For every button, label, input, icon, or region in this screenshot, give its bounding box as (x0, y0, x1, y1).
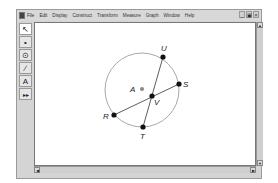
label-t: T (140, 132, 146, 141)
menu-transform[interactable]: Transform (97, 13, 118, 18)
close-button[interactable]: × (253, 11, 259, 18)
scroll-down-button[interactable]: ▼ (257, 160, 263, 166)
menu-measure[interactable]: Measure (123, 13, 141, 18)
circle-icon: ⊙ (22, 51, 29, 60)
menu-construct[interactable]: Construct (72, 13, 92, 18)
label-a: A (129, 85, 135, 94)
point-t[interactable] (140, 124, 145, 129)
point-tool[interactable]: • (19, 36, 32, 48)
center-point-a[interactable] (140, 87, 144, 91)
label-u: U (161, 44, 167, 53)
segment-ut[interactable] (143, 57, 163, 127)
text-tool[interactable]: A (19, 75, 32, 87)
arrow-icon: ↖ (22, 25, 29, 34)
menu-edit[interactable]: Edit (39, 13, 47, 18)
line-icon: ∕ (25, 64, 26, 73)
menu-file[interactable]: File (27, 13, 34, 18)
toolbox: ↖ • ⊙ ∕ A ▸▸ (18, 22, 33, 104)
window-controls: _ ▣ × (239, 11, 259, 18)
resize-grip-icon[interactable] (255, 172, 261, 178)
point-s[interactable] (176, 81, 181, 86)
vertical-scrollbar[interactable]: ▲ ▼ (256, 22, 263, 166)
geometry-drawing: U S A V R T (35, 23, 257, 167)
selection-arrow-tool[interactable]: ↖ (19, 23, 32, 35)
menu-window[interactable]: Window (163, 13, 179, 18)
menu-display[interactable]: Display (52, 13, 67, 18)
maximize-button[interactable]: ▣ (246, 11, 252, 18)
custom-tool-icon: ▸▸ (23, 91, 29, 98)
compass-tool[interactable]: ⊙ (19, 49, 32, 61)
straightedge-tool[interactable]: ∕ (19, 62, 32, 74)
horizontal-scrollbar[interactable]: ◀ ▶ (34, 166, 256, 173)
point-r[interactable] (111, 112, 116, 117)
app-icon[interactable] (19, 12, 25, 19)
minimize-button[interactable]: _ (239, 11, 245, 18)
point-icon: • (24, 38, 27, 47)
text-icon: A (23, 77, 28, 86)
segment-rs[interactable] (114, 84, 179, 115)
scroll-up-button[interactable]: ▲ (257, 22, 263, 28)
menu-help[interactable]: Help (185, 13, 194, 18)
custom-tool[interactable]: ▸▸ (19, 88, 32, 100)
menu-graph[interactable]: Graph (146, 13, 159, 18)
label-v: V (154, 98, 160, 107)
scroll-left-button[interactable]: ◀ (34, 167, 40, 173)
menu-bar: File Edit Display Construct Transform Me… (17, 10, 261, 21)
sketchpad-window: File Edit Display Construct Transform Me… (16, 9, 262, 179)
sketch-canvas[interactable]: U S A V R T (34, 22, 256, 166)
point-u[interactable] (160, 54, 165, 59)
label-r: R (103, 112, 109, 121)
label-s: S (183, 80, 189, 89)
